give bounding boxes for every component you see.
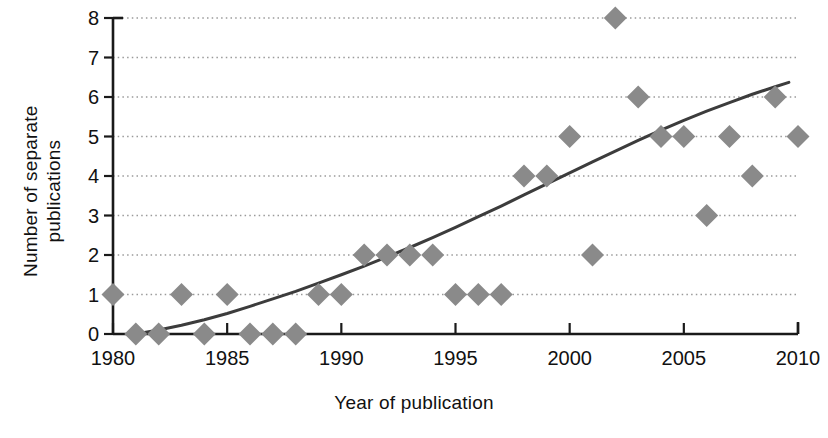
x-tick-label-1985: 1985: [187, 348, 267, 368]
x-axis-title: Year of publication: [0, 392, 828, 414]
y-axis-title-line-1: Number of separate: [19, 61, 42, 321]
x-tick-label-2010: 2010: [758, 348, 828, 368]
x-tick-label-2000: 2000: [530, 348, 610, 368]
y-tick-label-1: 1: [65, 285, 99, 305]
y-tick-label-6: 6: [65, 87, 99, 107]
x-tick-label-1990: 1990: [301, 348, 381, 368]
y-axis-title: Number of separatepublications: [19, 61, 65, 321]
y-tick-label-7: 7: [65, 48, 99, 68]
scatter-chart: 012345678 1980198519901995200020052010 N…: [0, 0, 828, 438]
y-axis-title-line-2: publications: [42, 61, 65, 321]
x-tick-label-1995: 1995: [416, 348, 496, 368]
x-tick-label-2005: 2005: [644, 348, 724, 368]
y-tick-label-5: 5: [65, 127, 99, 147]
y-tick-label-2: 2: [65, 245, 99, 265]
y-tick-label-8: 8: [65, 8, 99, 28]
y-tick-label-4: 4: [65, 166, 99, 186]
y-tick-label-3: 3: [65, 206, 99, 226]
x-tick-label-1980: 1980: [73, 348, 153, 368]
y-tick-labels: 012345678: [0, 0, 828, 438]
y-tick-label-0: 0: [65, 324, 99, 344]
